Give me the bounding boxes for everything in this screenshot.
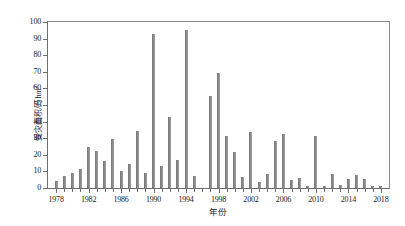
bar	[331, 174, 334, 188]
y-axis-tick	[43, 188, 48, 189]
x-axis-minor-tick	[275, 188, 276, 192]
bar	[168, 117, 171, 188]
bar	[306, 186, 309, 188]
bar	[241, 177, 244, 188]
x-axis-major-tick	[219, 188, 220, 193]
x-axis-major-tick	[56, 188, 57, 193]
bar	[323, 186, 326, 188]
bar	[185, 30, 188, 188]
bar	[128, 164, 131, 188]
bar	[144, 173, 147, 188]
y-axis-tick-label: 50	[33, 101, 41, 109]
bar	[111, 139, 114, 188]
x-axis-minor-tick	[178, 188, 179, 192]
bar	[152, 34, 155, 188]
plot-area: 0102030405060708090100 19781982198619901…	[47, 21, 390, 189]
x-axis-minor-tick	[210, 188, 211, 192]
bar	[363, 179, 366, 188]
x-axis-tick-label: 1990	[146, 195, 161, 204]
y-axis-tick-label: 40	[33, 118, 41, 126]
x-axis-minor-tick	[97, 188, 98, 192]
y-axis-tick-label: 90	[33, 35, 41, 43]
x-axis-minor-tick	[243, 188, 244, 192]
bar	[71, 173, 74, 188]
x-axis-minor-tick	[105, 188, 106, 192]
x-axis-tick-label: 2002	[243, 195, 258, 204]
bar	[379, 186, 382, 188]
y-axis-tick-label: 0	[37, 184, 41, 192]
y-axis-tick-label: 70	[33, 68, 41, 76]
bar	[249, 132, 252, 188]
x-axis-minor-tick	[72, 188, 73, 192]
x-axis-minor-tick	[137, 188, 138, 192]
y-axis-tick-label: 80	[33, 51, 41, 59]
bar	[160, 166, 163, 188]
x-axis-tick-label: 2018	[373, 195, 388, 204]
x-axis-minor-tick	[194, 188, 195, 192]
x-axis-minor-tick	[292, 188, 293, 192]
x-axis-minor-tick	[145, 188, 146, 192]
x-axis-tick-label: 2014	[341, 195, 356, 204]
x-axis-minor-tick	[373, 188, 374, 192]
x-axis-tick-label: 1978	[49, 195, 64, 204]
bar	[298, 178, 301, 188]
bar	[266, 174, 269, 188]
bar	[347, 179, 350, 188]
y-axis-tick-label: 100	[30, 18, 41, 26]
x-axis-minor-tick	[259, 188, 260, 192]
bar	[55, 181, 58, 188]
x-axis-minor-tick	[267, 188, 268, 192]
x-axis-minor-tick	[202, 188, 203, 192]
x-axis-minor-tick	[332, 188, 333, 192]
bar	[176, 160, 179, 188]
bar	[209, 96, 212, 188]
x-axis-tick-label: 1986	[113, 195, 128, 204]
x-axis-minor-tick	[300, 188, 301, 192]
x-axis-minor-tick	[227, 188, 228, 192]
x-axis-title: 年份	[47, 207, 388, 217]
bar	[258, 182, 261, 188]
bar	[136, 131, 139, 188]
x-axis-tick-label: 1998	[211, 195, 226, 204]
bar	[193, 176, 196, 188]
x-axis-major-tick	[381, 188, 382, 193]
x-axis-major-tick	[154, 188, 155, 193]
x-axis-minor-tick	[80, 188, 81, 192]
bar	[233, 152, 236, 188]
x-axis-minor-tick	[365, 188, 366, 192]
x-axis-minor-tick	[129, 188, 130, 192]
bar	[290, 180, 293, 188]
x-axis-minor-tick	[113, 188, 114, 192]
x-axis-major-tick	[89, 188, 90, 193]
bar	[314, 136, 317, 188]
bar	[87, 147, 90, 188]
bar	[79, 169, 82, 188]
x-axis-minor-tick	[235, 188, 236, 192]
x-axis-minor-tick	[324, 188, 325, 192]
x-axis-major-tick	[348, 188, 349, 193]
bar	[371, 186, 374, 188]
y-axis-tick-label: 60	[33, 84, 41, 92]
chart-figure: 受灾面积/万hm2 0102030405060708090100 1978198…	[0, 0, 405, 226]
x-axis-major-tick	[121, 188, 122, 193]
bar	[103, 161, 106, 188]
x-axis-major-tick	[186, 188, 187, 193]
y-axis-tick-label: 20	[33, 151, 41, 159]
bar	[355, 175, 358, 188]
x-axis-minor-tick	[308, 188, 309, 192]
x-axis-tick-label: 1994	[178, 195, 193, 204]
x-axis-tick-label: 2010	[308, 195, 323, 204]
bar	[339, 185, 342, 188]
bar	[225, 136, 228, 188]
bar	[217, 73, 220, 188]
x-axis-major-tick	[283, 188, 284, 193]
y-axis-tick-label: 10	[33, 167, 41, 175]
x-axis-major-tick	[251, 188, 252, 193]
x-axis-major-tick	[316, 188, 317, 193]
x-axis-tick-label: 1982	[81, 195, 96, 204]
x-axis-minor-tick	[64, 188, 65, 192]
x-axis-minor-tick	[162, 188, 163, 192]
bar	[282, 134, 285, 188]
bar-series	[48, 22, 389, 188]
bar	[63, 176, 66, 188]
